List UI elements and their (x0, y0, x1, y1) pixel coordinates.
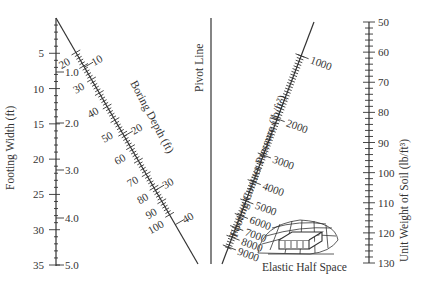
unit-weight-tick-label: 80 (378, 106, 390, 118)
unit-weight-tick-label: 100 (378, 167, 395, 179)
footing-width-tick-label: 25 (33, 188, 45, 200)
unit-weight-tick-label: 110 (378, 197, 395, 209)
footing-width-tick-label: 30 (33, 224, 45, 236)
boring-depth-inner-label: 50 (99, 129, 115, 145)
contact-pressure-tick-label: 1000 (309, 54, 334, 73)
footing-width-title: Footing Width (ft) (4, 106, 17, 190)
contact-pressure-tick-label: 3000 (271, 153, 296, 172)
elastic-half-space-caption: Elastic Half Space (262, 261, 347, 274)
unit-weight-tick-label: 60 (378, 46, 390, 58)
footing-width-tick-label: 10 (33, 83, 45, 95)
unit-weight-title: Unit Weight of Soil (lb/ft³) (398, 139, 411, 262)
boring-depth-outer-label: 20 (129, 121, 145, 137)
footing-width-secondary-label: 3.0 (65, 164, 79, 176)
boring-depth-outer-label: 30 (160, 175, 176, 191)
unit-weight-tick-label: 130 (378, 257, 395, 269)
footing-width-tick-label: 5 (39, 47, 45, 59)
unit-weight-tick-label: 50 (378, 16, 390, 28)
boring-depth-inner-label: 60 (112, 151, 128, 167)
boring-depth-inner-label: 70 (125, 173, 141, 189)
pivot-line-title: Pivot Line (193, 44, 205, 92)
boring-depth-outer-label: 10 (89, 52, 105, 68)
unit-weight-tick-label: 70 (378, 76, 390, 88)
contact-pressure-tick-label: 4000 (261, 180, 286, 199)
boring-depth-title: Boring Depth (ft) (127, 78, 176, 155)
footing-width-tick-label: 15 (33, 118, 45, 130)
boring-depth-inner-label: 40 (85, 104, 101, 120)
contact-pressure-tick-label: 2000 (285, 117, 310, 136)
unit-weight-tick-label: 90 (378, 137, 390, 149)
footing-width-secondary-label: 5.0 (65, 259, 79, 271)
footing-width-tick-label: 35 (33, 259, 45, 271)
boring-depth-outer-label: 40 (180, 209, 196, 225)
unit-weight-tick-label: 120 (378, 227, 395, 239)
footing-width-secondary-label: 2.0 (65, 117, 79, 129)
nomograph: 5101520253035 1.02.03.04.05.0 Footing Wi… (0, 0, 427, 285)
footing-width-secondary-label: 4.0 (65, 212, 79, 224)
boring-depth-inner-label: 30 (71, 80, 87, 96)
footing-width-tick-label: 20 (33, 153, 45, 165)
boring-depth-inner-label: 80 (135, 190, 151, 206)
